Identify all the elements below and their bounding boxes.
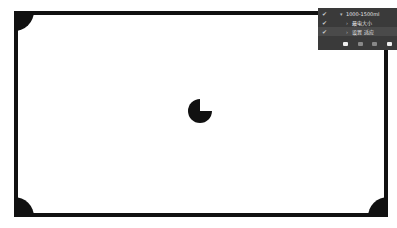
layer-row-selected[interactable]: ✔ › 设置 适应: [318, 27, 397, 36]
chevron-right-icon[interactable]: ›: [346, 20, 348, 26]
checkmark-icon[interactable]: ✔: [322, 28, 327, 35]
layer-row[interactable]: ✔ ▾ 1000-1500ml: [318, 9, 397, 18]
layer-label: 1000-1500ml: [346, 11, 380, 17]
pie-loading-icon: [188, 99, 212, 123]
layers-panel: ✔ ▾ 1000-1500ml ✔ › 最电大小 ✔ › 设置 适应: [318, 8, 397, 50]
fill-icon[interactable]: [343, 42, 348, 46]
paste-icon[interactable]: [372, 42, 377, 46]
layer-row[interactable]: ✔ › 最电大小: [318, 18, 397, 27]
chevron-down-icon[interactable]: ▾: [340, 11, 343, 17]
chevron-right-icon[interactable]: ›: [346, 29, 348, 35]
layer-label: 设置 适应: [352, 28, 374, 35]
circle-icon[interactable]: [358, 42, 363, 46]
folder-icon[interactable]: [387, 42, 392, 46]
layer-label: 最电大小: [352, 19, 372, 26]
panel-toolbar: [338, 39, 397, 48]
checkmark-icon[interactable]: ✔: [322, 19, 327, 26]
checkmark-icon[interactable]: ✔: [322, 10, 327, 17]
